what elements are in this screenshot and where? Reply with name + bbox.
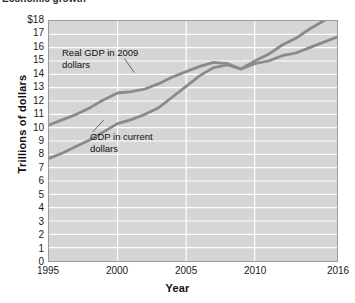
x-tick-label: 2016 xyxy=(327,265,349,276)
x-tick-label: 1995 xyxy=(37,265,59,276)
y-tick-label: 1 xyxy=(4,244,44,254)
y-tick-label: 2 xyxy=(4,230,44,240)
y-tick-label: 4 xyxy=(4,203,44,213)
x-axis-label: Year xyxy=(0,282,355,294)
x-tick-label: 2005 xyxy=(175,265,197,276)
y-tick-label: 3 xyxy=(4,217,44,227)
gdp-chart-figure: Economic growth 012345678910111213141516… xyxy=(0,0,355,303)
y-tick-label: 17 xyxy=(4,28,44,38)
y-axis-label: Trillions of dollars xyxy=(16,44,28,204)
current-gdp-annotation: GDP in current dollars xyxy=(90,131,153,154)
x-tick-label: 2000 xyxy=(106,265,128,276)
x-tick-label: 2010 xyxy=(244,265,266,276)
real-gdp-annotation: Real GDP in 2009 dollars xyxy=(62,47,138,70)
figure-caption-cropped: Economic growth xyxy=(0,0,355,9)
figure-caption-text: Economic growth xyxy=(2,0,86,4)
y-tick-label: $18 xyxy=(4,15,44,25)
